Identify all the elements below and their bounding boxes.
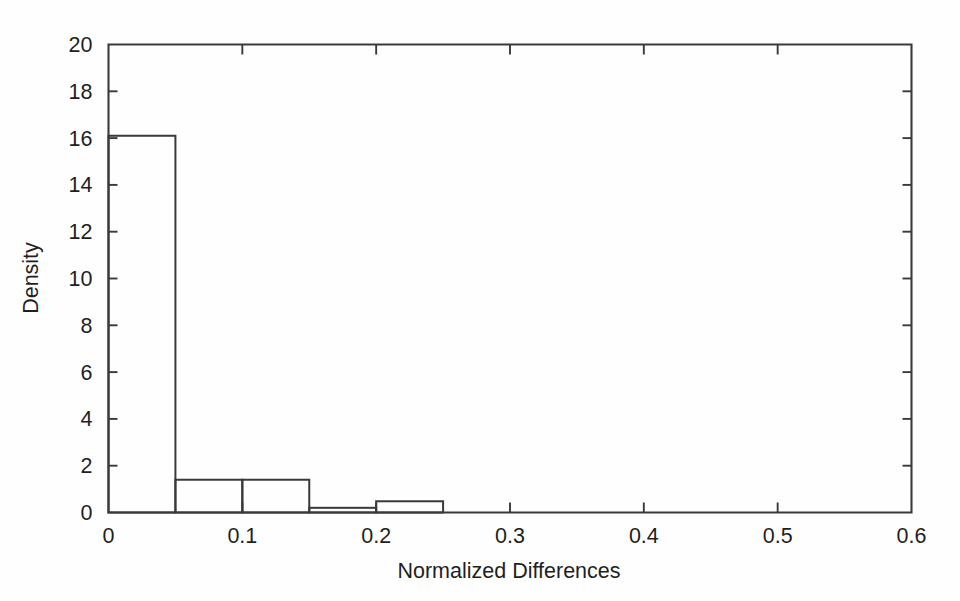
y-axis-tick-label: 12 bbox=[69, 220, 93, 244]
y-axis-tick-label: 4 bbox=[81, 407, 93, 431]
y-axis-tick-label: 14 bbox=[69, 173, 93, 197]
bars-group bbox=[109, 136, 444, 513]
y-axis-tick-label: 18 bbox=[69, 80, 93, 104]
chart-canvas: 0246810121416182000.10.20.30.40.50.6 Nor… bbox=[0, 0, 960, 601]
histogram-figure: 0246810121416182000.10.20.30.40.50.6 Nor… bbox=[0, 0, 960, 601]
y-axis-tick-label: 20 bbox=[69, 33, 93, 57]
histogram-bar bbox=[242, 480, 309, 513]
y-axis-tick-label: 16 bbox=[69, 127, 93, 151]
histogram-bar bbox=[376, 501, 443, 512]
y-axis-tick-label: 2 bbox=[81, 454, 93, 478]
histogram-bar bbox=[175, 480, 242, 513]
plot-box-outline bbox=[109, 45, 912, 513]
axis-tick-labels: 0246810121416182000.10.20.30.40.50.6 bbox=[69, 33, 927, 548]
x-axis-title: Normalized Differences bbox=[397, 559, 620, 583]
axis-ticks-group bbox=[109, 45, 912, 513]
histogram-bar bbox=[109, 136, 176, 513]
x-axis-tick-label: 0.5 bbox=[763, 524, 793, 548]
x-axis-tick-label: 0 bbox=[103, 524, 115, 548]
x-axis-tick-label: 0.4 bbox=[629, 524, 659, 548]
y-axis-tick-label: 10 bbox=[69, 267, 93, 291]
y-axis-title: Density bbox=[19, 242, 43, 314]
x-axis-tick-label: 0.3 bbox=[495, 524, 525, 548]
plot-frame bbox=[109, 45, 912, 513]
y-axis-tick-label: 0 bbox=[81, 501, 93, 525]
x-axis-tick-label: 0.2 bbox=[361, 524, 391, 548]
x-axis-tick-label: 0.1 bbox=[227, 524, 257, 548]
x-axis-tick-label: 0.6 bbox=[897, 524, 927, 548]
y-axis-tick-label: 6 bbox=[81, 361, 93, 385]
y-axis-tick-label: 8 bbox=[81, 314, 93, 338]
